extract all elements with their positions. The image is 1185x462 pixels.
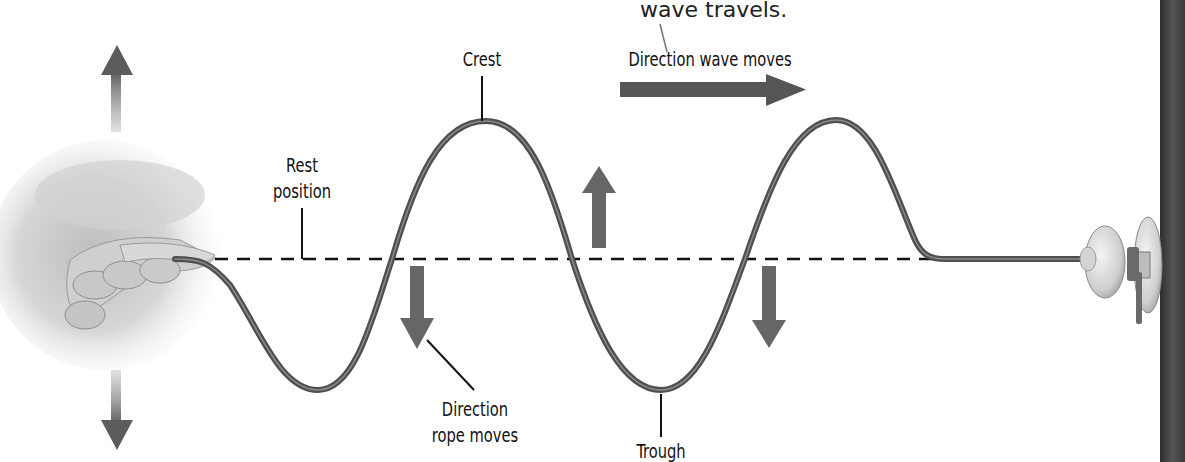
rope-down-arrow-right bbox=[752, 266, 786, 348]
hand-illustration bbox=[0, 140, 220, 370]
rope-up-arrow bbox=[582, 166, 616, 248]
trough-label: Trough bbox=[622, 440, 699, 462]
wave-diagram bbox=[0, 0, 1185, 462]
wave-direction-arrow bbox=[620, 74, 806, 106]
caption-text: wave travels. bbox=[640, 0, 787, 22]
hand-down-arrow bbox=[101, 370, 133, 450]
rope-direction-label-line1: Direction bbox=[428, 398, 523, 420]
rest-position-label-line2: position bbox=[259, 180, 345, 202]
door-knob bbox=[1080, 217, 1162, 324]
rope-direction-label-line2: rope moves bbox=[415, 424, 535, 446]
rope-down-arrow-left bbox=[400, 266, 434, 349]
crest-label: Crest bbox=[448, 48, 517, 70]
wall bbox=[1160, 0, 1185, 462]
wave-direction-label: Direction wave moves bbox=[598, 48, 822, 70]
rope-direction-leader bbox=[427, 340, 474, 390]
rest-position-label-line1: Rest bbox=[268, 154, 337, 176]
hand-up-arrow bbox=[101, 45, 133, 132]
